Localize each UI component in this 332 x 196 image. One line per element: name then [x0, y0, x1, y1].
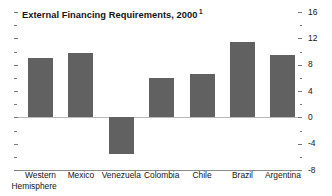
plot-area: [14, 6, 302, 166]
axis-tick-right: [298, 91, 302, 92]
axis-tick-left: [14, 91, 18, 92]
chart-figure: External Financing Requirements, 20001 W…: [0, 0, 332, 196]
bar: [270, 55, 295, 118]
x-label-line-1: Mexico: [68, 170, 95, 180]
axis-tick-left: [14, 104, 17, 105]
axis-tick-left: [14, 65, 18, 66]
axis-tick-right: [298, 117, 302, 118]
axis-tick-right: [300, 78, 303, 79]
axis-tick-left: [14, 144, 18, 145]
axis-tick-left: [14, 157, 17, 158]
axis-tick-right: [300, 104, 303, 105]
axis-tick-left: [14, 117, 18, 118]
y-axis-tick-label: 0: [308, 112, 313, 122]
x-label-line-1: Argentina: [265, 170, 301, 180]
bar: [190, 74, 215, 117]
axis-tick-left: [14, 52, 17, 53]
axis-tick-left: [14, 12, 18, 13]
bar: [230, 42, 255, 118]
bar: [109, 117, 134, 153]
axis-tick-left: [14, 131, 17, 132]
bar: [68, 53, 93, 118]
x-label-line-2: Hemisphere: [12, 181, 70, 192]
y-axis-tick-label: 12: [308, 33, 317, 43]
zero-reference-line: [14, 117, 302, 118]
axis-tick-left: [14, 38, 18, 39]
axis-tick-right: [298, 38, 302, 39]
x-label-line-1: Brazil: [232, 170, 253, 180]
y-axis-tick-label: 8: [308, 59, 313, 69]
x-label-line-1: Chile: [193, 170, 212, 180]
y-axis-tick-label: -4: [308, 138, 315, 148]
y-axis-tick-label: 16: [308, 7, 317, 17]
axis-tick-right: [300, 157, 303, 158]
axis-tick-right: [300, 25, 303, 26]
bar: [149, 78, 174, 118]
y-axis-tick-label: -8: [308, 165, 315, 175]
axis-tick-right: [298, 144, 302, 145]
axis-tick-right: [298, 12, 302, 13]
axis-tick-left: [14, 78, 17, 79]
axis-tick-right: [300, 131, 303, 132]
x-axis-category-label: Argentina: [254, 170, 312, 181]
axis-tick-right: [300, 52, 303, 53]
axis-tick-right: [298, 65, 302, 66]
axis-tick-left: [14, 25, 17, 26]
bar: [28, 58, 53, 117]
x-axis-labels: WesternHemisphereMexicoVenezuelaColombia…: [14, 170, 302, 196]
y-axis-tick-label: 4: [308, 86, 313, 96]
